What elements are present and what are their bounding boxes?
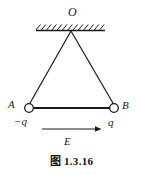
ceiling-support [36,25,105,31]
string-left [30,31,72,104]
electric-field-arrow [42,126,102,132]
string-right [71,31,114,104]
label-charge-negative-q: −q [14,116,27,127]
figure-caption: 图 1.3.16 [0,152,143,168]
suspension-strings [30,31,114,104]
field-arrow-head [95,126,102,132]
ceiling-hatch-marks [36,25,104,31]
label-point-a: A [8,99,15,110]
charge-node-a [25,104,34,113]
charge-node-b [110,104,119,113]
label-field-e: E [64,136,71,147]
label-charge-positive-q: q [108,117,114,128]
label-apex-o: O [68,6,77,18]
figure-diagram-svg [0,0,143,175]
label-point-b: B [122,100,129,111]
physics-figure: O A B −q q E 图 1.3.16 [0,0,143,175]
